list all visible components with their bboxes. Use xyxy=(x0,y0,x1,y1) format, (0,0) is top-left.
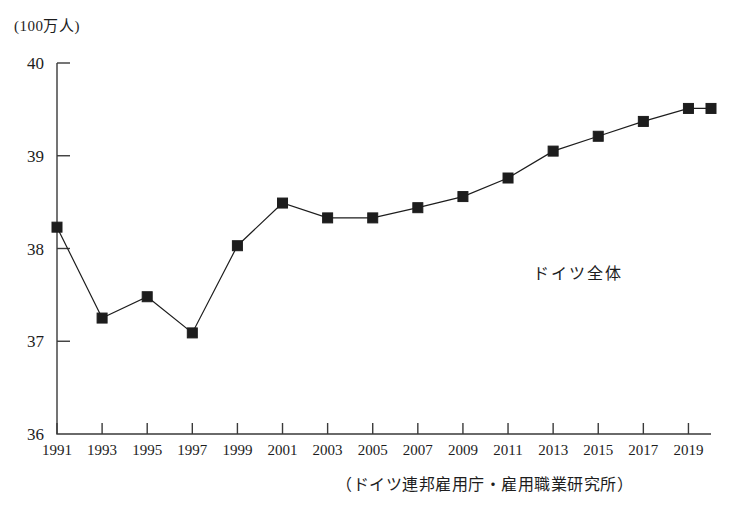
data-point-marker xyxy=(503,173,513,183)
x-axis-tick-label: 1995 xyxy=(132,442,162,458)
y-axis-tick-label: 38 xyxy=(27,240,44,259)
chart-source-note: （ドイツ連邦雇用庁・雇用職業研究所） xyxy=(336,471,633,495)
chart-unit-title: (100万人) xyxy=(14,14,80,35)
x-axis-tick-label: 1993 xyxy=(87,442,117,458)
x-axis-tick-label: 2011 xyxy=(493,442,522,458)
x-axis-tick-label: 2009 xyxy=(448,442,478,458)
y-axis-tick-label: 39 xyxy=(27,147,44,166)
data-point-marker xyxy=(593,131,603,141)
x-axis-tick-label: 1991 xyxy=(42,442,72,458)
y-axis-tick-label: 40 xyxy=(27,54,44,73)
data-point-marker xyxy=(706,103,716,113)
x-axis-tick-label: 2013 xyxy=(538,442,568,458)
data-point-marker xyxy=(278,198,288,208)
y-axis-tick-label: 37 xyxy=(27,332,45,351)
data-point-marker xyxy=(638,116,648,126)
data-point-marker xyxy=(52,222,62,232)
x-axis-tick-label: 1999 xyxy=(222,442,252,458)
line-chart-plot: 3637383940199119931995199719992001200320… xyxy=(0,0,729,508)
x-axis-tick-label: 2015 xyxy=(583,442,613,458)
chart-container: (100万人) 36373839401991199319951997199920… xyxy=(0,0,729,508)
data-point-marker xyxy=(683,103,693,113)
chart-axes xyxy=(57,63,711,434)
data-point-marker xyxy=(97,313,107,323)
x-axis-tick-label: 2007 xyxy=(403,442,434,458)
data-point-marker xyxy=(187,328,197,338)
x-axis-tick-label: 2019 xyxy=(673,442,703,458)
x-axis-tick-label: 2001 xyxy=(268,442,298,458)
data-point-marker xyxy=(323,213,333,223)
data-point-marker xyxy=(368,213,378,223)
series-line xyxy=(57,108,711,332)
data-point-marker xyxy=(548,146,558,156)
x-axis-tick-label: 2017 xyxy=(628,442,659,458)
x-axis-tick-label: 2005 xyxy=(358,442,388,458)
data-point-marker xyxy=(458,192,468,202)
x-axis-tick-label: 1997 xyxy=(177,442,208,458)
data-point-marker xyxy=(142,292,152,302)
data-point-marker xyxy=(232,241,242,251)
data-point-marker xyxy=(413,203,423,213)
series-annotation-label: ドイツ全体 xyxy=(533,260,623,284)
x-axis-tick-label: 2003 xyxy=(313,442,343,458)
